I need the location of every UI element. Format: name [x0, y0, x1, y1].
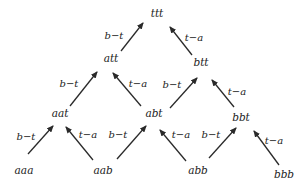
edge-label-bbb-to-bbt: t−a [265, 135, 283, 146]
node-btt: btt [193, 56, 209, 68]
edge-label-aaa-to-aat: b−t [17, 131, 37, 142]
edge-label-aat-to-att: b−t [60, 78, 80, 89]
edges-group: b−tt−ab−tt−ab−tt−ab−tt−ab−tt−ab−tt−a [17, 23, 284, 165]
arrow-att-to-ttt [121, 23, 143, 51]
node-att: att [104, 52, 119, 64]
edge-label-aab-to-abt: b−t [109, 129, 129, 140]
edge-label-abt-to-att: t−a [129, 78, 147, 89]
edge-label-btt-to-ttt: t−a [185, 32, 203, 43]
node-abt: abt [145, 107, 163, 119]
node-abb: abb [188, 164, 208, 176]
edge-label-abt-to-btt: b−t [163, 79, 183, 90]
node-ttt: ttt [151, 7, 164, 19]
node-aab: aab [93, 164, 113, 176]
node-aaa: aaa [15, 164, 34, 176]
nodes-group: tttattbttaatabtbbtaaaaababbbbb [15, 7, 295, 180]
edge-label-att-to-ttt: b−t [105, 30, 125, 41]
edge-label-abb-to-abt: t−a [172, 129, 190, 140]
edge-label-bbt-to-btt: t−a [228, 86, 246, 97]
node-bbt: bbt [232, 111, 250, 123]
edge-label-aab-to-aat: t−a [79, 129, 97, 140]
tree-diagram: b−tt−ab−tt−ab−tt−ab−tt−ab−tt−ab−tt−a ttt… [0, 0, 307, 183]
edge-label-abb-to-bbt: b−t [202, 129, 222, 140]
node-bbb: bbb [274, 168, 294, 180]
node-aat: aat [52, 107, 70, 119]
